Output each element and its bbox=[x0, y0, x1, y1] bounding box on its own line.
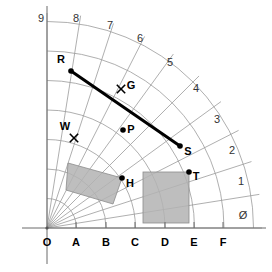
radial-label-8: 8 bbox=[73, 12, 79, 24]
point-marker-S[interactable] bbox=[177, 143, 183, 149]
point-label-W: W bbox=[60, 120, 71, 132]
point-marker-P[interactable] bbox=[120, 127, 126, 133]
diagram-canvas: OABCDEF 987654321ØRGPWSHT bbox=[0, 0, 272, 272]
radial-label-5: 5 bbox=[167, 56, 173, 68]
polar-grid-diagram: OABCDEF 987654321ØRGPWSHT bbox=[0, 0, 272, 272]
radial-label-2: 2 bbox=[229, 144, 235, 156]
point-marker-H[interactable] bbox=[119, 175, 125, 181]
radial-label-1: 1 bbox=[238, 175, 244, 187]
x-tick-label-B: B bbox=[102, 236, 110, 248]
radial-label-Ø: Ø bbox=[239, 209, 248, 221]
x-tick-label-F: F bbox=[220, 236, 227, 248]
x-tick-label-O: O bbox=[43, 236, 52, 248]
radial-label-4: 4 bbox=[193, 82, 199, 94]
point-label-G: G bbox=[127, 79, 136, 91]
segment-RS bbox=[71, 71, 180, 146]
x-tick-label-E: E bbox=[190, 236, 197, 248]
radial-label-9: 9 bbox=[38, 12, 44, 24]
radial-label-7: 7 bbox=[107, 19, 113, 31]
point-label-T: T bbox=[193, 170, 200, 182]
x-tick-label-D: D bbox=[161, 236, 169, 248]
shaded-region-group bbox=[66, 163, 189, 223]
point-label-S: S bbox=[184, 145, 191, 157]
radial-label-3: 3 bbox=[214, 113, 220, 125]
point-label-R: R bbox=[57, 53, 65, 65]
x-tick-label-A: A bbox=[72, 236, 80, 248]
x-tick-label-C: C bbox=[131, 236, 139, 248]
shaded-region-axis-rect bbox=[143, 172, 189, 223]
point-label-P: P bbox=[127, 123, 134, 135]
point-marker-R[interactable] bbox=[68, 68, 74, 74]
point-label-H: H bbox=[126, 177, 134, 189]
segment-group bbox=[71, 71, 180, 146]
origin-marker bbox=[45, 226, 48, 229]
radial-label-6: 6 bbox=[137, 32, 143, 44]
point-marker-T[interactable] bbox=[186, 169, 192, 175]
